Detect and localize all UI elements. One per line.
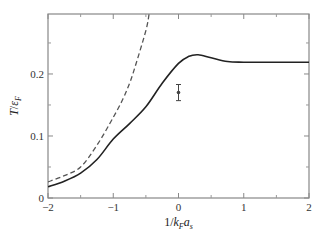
plot-frame <box>48 14 309 198</box>
data-point-marker <box>177 91 181 95</box>
x-tick-label: 0 <box>176 201 182 213</box>
y-tick-label: 0.2 <box>30 68 44 80</box>
x-tick-label: −1 <box>107 201 119 213</box>
axis-ticks <box>48 14 309 198</box>
axes-box <box>48 14 309 198</box>
x-axis-label: 1/kFas <box>164 215 193 231</box>
x-tick-label: 2 <box>306 201 312 213</box>
x-tick-label: 1 <box>241 201 247 213</box>
y-axis-label: T/εF <box>7 96 23 116</box>
y-tick-label: 0 <box>39 192 45 204</box>
solid-curve <box>48 55 309 187</box>
axis-labels: −2−101200.10.21/kFasT/εF <box>7 68 312 231</box>
plot-series <box>48 14 309 187</box>
chart: −2−101200.10.21/kFasT/εF <box>0 0 328 237</box>
y-tick-label: 0.1 <box>30 130 44 142</box>
